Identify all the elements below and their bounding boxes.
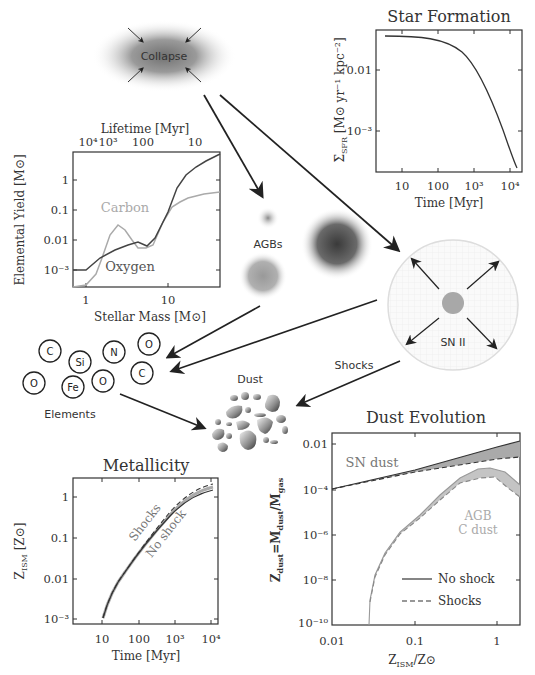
x-axis-label: Time [Myr] [112, 649, 180, 663]
y-tick: 0.01 [346, 63, 372, 77]
svg-text:O: O [145, 339, 153, 350]
dust-evolution-plot: Dust Evolution 0.01 10⁻⁴ 10⁻⁶ 10⁻⁸ 10⁻¹⁰… [269, 408, 520, 669]
y-tick: 10⁻³ [44, 263, 70, 277]
y-tick: 0.01 [43, 233, 69, 247]
x-tick: 100 [427, 179, 449, 193]
elemental-yield-plot: Lifetime [Myr] 10⁴ 10³ 100 10 1 0.1 0.01… [13, 122, 220, 324]
svg-text:Fe: Fe [67, 382, 78, 393]
svg-text:O: O [30, 378, 38, 389]
top-tick: 10³ [98, 135, 118, 149]
sn2-label: SN II [440, 336, 465, 349]
y-tick: 1 [62, 490, 69, 504]
y-axis-label: Elemental Yield [M⊙] [13, 154, 27, 285]
x-tick: 0.01 [319, 634, 345, 648]
top-tick: 100 [132, 135, 154, 149]
x-tick: 10 [95, 632, 110, 646]
supernova-core-icon [442, 292, 464, 314]
oxygen-label: Oxygen [105, 259, 155, 274]
star-formation-plot: Star Formation 0.01 10⁻³ 10 100 10³ 10⁴ … [333, 7, 522, 210]
element-circle: Fe [62, 376, 84, 398]
y-tick: 10⁻³ [347, 124, 373, 138]
x-axis-label: ZISM/Z⊙ [388, 653, 436, 669]
x-tick: 100 [128, 632, 150, 646]
x-tick: 10³ [165, 632, 185, 646]
element-circle: O [92, 370, 114, 392]
collapse-label: Collapse [141, 50, 188, 63]
x-tick: 10⁴ [500, 179, 520, 193]
agb-star-icon [257, 207, 279, 229]
agb-stars-node: AGBs [239, 207, 373, 300]
plot-title: Metallicity [103, 456, 190, 475]
top-tick: 10 [188, 135, 203, 149]
element-circle: O [138, 333, 160, 355]
y-tick: 10⁻⁸ [303, 573, 329, 587]
y-tick: 0.1 [51, 203, 69, 217]
svg-text:C: C [47, 346, 54, 357]
y-tick: 0.01 [43, 572, 69, 586]
y-tick: 0.01 [302, 437, 328, 451]
top-axis-label: Lifetime [Myr] [101, 122, 189, 136]
agbs-label: AGBs [253, 238, 282, 251]
legend-label: No shock [438, 572, 495, 586]
x-tick: 1 [493, 634, 500, 648]
collapse-to-agb-arrow-icon [204, 95, 262, 196]
element-circle: N [103, 341, 125, 363]
shocks-label: Shocks [335, 359, 374, 372]
agb-star-icon [239, 252, 287, 300]
y-tick: 10⁻³ [44, 612, 70, 626]
agb-star-icon [301, 208, 373, 280]
svg-text:O: O [99, 376, 107, 387]
plot-frame [376, 30, 522, 172]
y-tick: 10⁻¹⁰ [298, 616, 328, 630]
agb-dust-label-1: AGB [463, 509, 491, 523]
legend-label: Shocks [438, 594, 481, 608]
x-tick: 10 [395, 179, 410, 193]
x-axis-label: Stellar Mass [M⊙] [94, 310, 206, 324]
y-tick: 10⁻⁶ [303, 528, 329, 542]
top-tick: 10⁴ [78, 135, 98, 149]
collapse-node: Collapse [92, 20, 236, 92]
svg-text:C: C [139, 368, 146, 379]
galaxy-dust-evolution-diagram: Collapse AGBs SN II Shocks C Si N O O Fe… [0, 0, 535, 675]
y-axis-label: Zdust=Mdust/Mgas [269, 477, 285, 582]
plot-title: Star Formation [387, 7, 510, 26]
dust-node: Dust [212, 373, 288, 452]
y-axis-label: ZISM [Z⊙] [13, 523, 29, 580]
y-tick: 10⁻⁴ [303, 483, 329, 497]
elements-to-dust-arrow-icon [120, 394, 204, 428]
dust-grains-icon [212, 392, 288, 452]
y-tick: 1 [62, 173, 69, 187]
carbon-label: Carbon [101, 200, 150, 215]
element-circle: C [39, 340, 61, 362]
sn-dust-label: SN dust [345, 455, 399, 470]
elements-node: C Si N O O Fe O C Elements [23, 333, 160, 421]
element-circle: O [23, 372, 45, 394]
legend: No shock Shocks [402, 572, 495, 608]
agb-dust-label-2: C dust [458, 523, 498, 537]
dust-label: Dust [237, 373, 263, 386]
metallicity-plot: Metallicity 1 0.1 0.01 10⁻³ 10 100 10³ 1… [13, 456, 221, 663]
element-circle: Si [69, 351, 91, 373]
x-tick: 10⁴ [201, 632, 221, 646]
x-tick: 0.1 [406, 634, 424, 648]
x-tick: 1 [82, 293, 89, 307]
plot-title: Dust Evolution [366, 408, 486, 427]
svg-text:Si: Si [75, 357, 84, 368]
x-tick: 10 [161, 293, 176, 307]
elements-label: Elements [44, 408, 96, 421]
svg-text:N: N [110, 347, 117, 358]
y-axis-label: ΣSFR [M⊙ yr⁻¹ kpc⁻²] [333, 37, 349, 162]
x-tick: 10³ [464, 179, 484, 193]
element-circle: C [131, 362, 153, 384]
x-axis-label: Time [Myr] [415, 196, 483, 210]
sn2-node: SN II [388, 240, 518, 370]
y-tick: 0.1 [51, 531, 69, 545]
sfr-curve [385, 36, 517, 168]
